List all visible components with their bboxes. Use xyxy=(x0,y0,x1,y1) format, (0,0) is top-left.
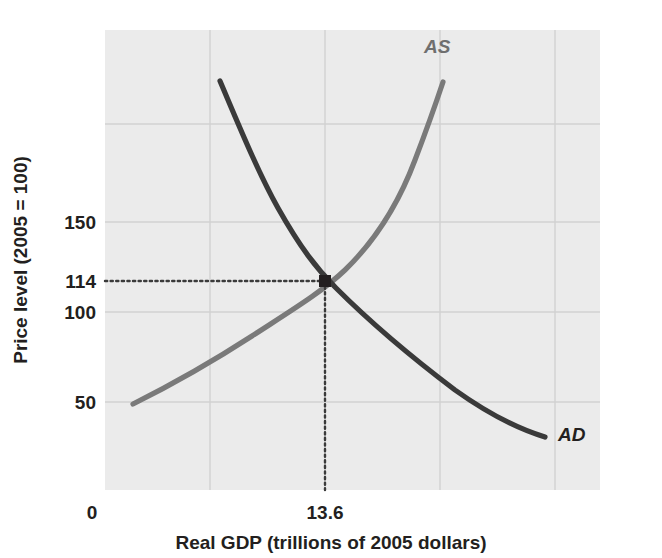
ad-as-chart-figure: Price level (2005 = 100) 150 114 100 50 … xyxy=(0,0,662,558)
ad-curve-label: AD xyxy=(558,424,585,446)
y-tick-label-150: 150 xyxy=(36,212,96,234)
y-axis-title: Price level (2005 = 100) xyxy=(10,156,32,364)
y-tick-label-114: 114 xyxy=(36,271,96,293)
y-tick-label-100: 100 xyxy=(36,302,96,324)
x-tick-label-equilibrium: 13.6 xyxy=(285,502,365,524)
x-axis-title: Real GDP (trillions of 2005 dollars) xyxy=(0,532,662,554)
y-axis-title-wrap: Price level (2005 = 100) xyxy=(4,30,38,490)
y-tick-label-50: 50 xyxy=(36,392,96,414)
chart-canvas xyxy=(0,0,662,558)
x-tick-label-zero: 0 xyxy=(52,502,132,524)
as-curve-label: AS xyxy=(424,36,450,58)
equilibrium-marker xyxy=(319,275,331,287)
